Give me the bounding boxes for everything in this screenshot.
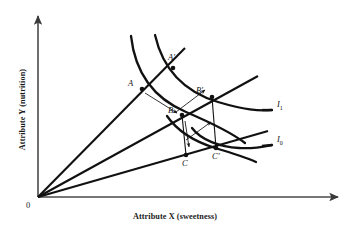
curve-label-I1: I1 xyxy=(277,99,283,111)
point-marker-A xyxy=(140,87,145,92)
point-label-B-prime: B' xyxy=(196,85,203,95)
axes-group xyxy=(38,16,338,197)
ray-through-B xyxy=(38,76,258,197)
tail-I0 xyxy=(262,145,272,146)
x-axis-label: Attribute X (sweetness) xyxy=(55,212,295,221)
diagram-canvas xyxy=(0,0,355,234)
point-label-C: C xyxy=(182,158,188,168)
point-label-B: B xyxy=(168,105,173,115)
ray-through-A xyxy=(38,48,185,197)
point-marker-Cprime xyxy=(214,146,219,151)
arrow-C-to-Bprime xyxy=(186,122,211,140)
curve-label-I0-sub: 0 xyxy=(280,140,283,146)
y-axis-label: Attribute Y (nutrition) xyxy=(18,40,27,180)
point-label-A-prime: A' xyxy=(168,52,175,62)
curve-label-I0: I0 xyxy=(277,134,283,146)
connector-Bprime-to-Cprime xyxy=(212,97,216,148)
indifference-curves-group xyxy=(131,35,272,162)
ray-through-C xyxy=(38,131,268,197)
point-marker-B xyxy=(180,113,185,118)
point-marker-Bprime xyxy=(210,95,215,100)
indifference-curve-figure: Attribute Y (nutrition) Attribute X (swe… xyxy=(0,0,355,234)
origin-label: 0 xyxy=(26,200,30,210)
point-marker-Aprime xyxy=(171,66,176,71)
curve-tails-group xyxy=(262,110,272,146)
point-marker-C xyxy=(184,153,189,158)
curve-I1-upper xyxy=(155,35,272,110)
point-label-A: A xyxy=(128,78,133,88)
curve-label-I1-sub: 1 xyxy=(280,105,283,111)
curve-I1-lower xyxy=(131,36,245,143)
origin-rays-group xyxy=(38,48,268,197)
point-label-C-prime: C' xyxy=(212,151,220,161)
